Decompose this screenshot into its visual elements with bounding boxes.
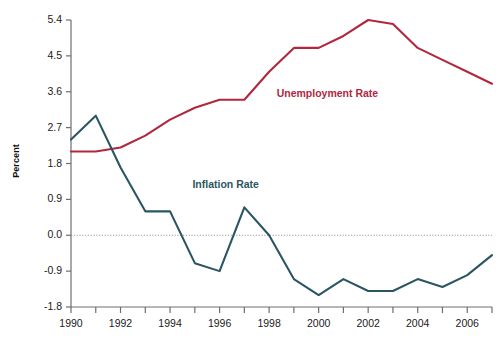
chart-container: Percent -1.8-0.90.00.91.82.73.64.55.4 19… [0, 0, 503, 348]
axis-lines [66, 20, 492, 313]
series-label-inflation-rate: Inflation Rate [192, 178, 259, 190]
plot-area [0, 0, 503, 348]
series-lines [71, 20, 492, 295]
series-label-unemployment-rate: Unemployment Rate [277, 87, 379, 99]
